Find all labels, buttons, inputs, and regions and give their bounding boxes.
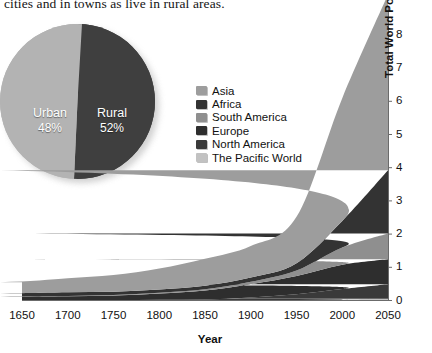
legend-item-asia[interactable]: Asia — [196, 84, 326, 97]
y-tick-label: 8 — [396, 28, 412, 40]
legend-swatch-icon — [196, 126, 207, 135]
x-tick-label: 2050 — [368, 309, 408, 321]
y-tick-label: 2 — [396, 227, 412, 239]
y-tick-label: 5 — [396, 128, 412, 140]
x-axis-title: Year — [170, 333, 250, 345]
area-chart-svg — [0, 0, 432, 353]
legend-item-africa[interactable]: Africa — [196, 97, 326, 110]
x-tick-label: 1900 — [231, 309, 271, 321]
x-tick-label: 1850 — [185, 309, 225, 321]
x-tick-label: 2000 — [322, 309, 362, 321]
x-tick-label: 1800 — [139, 309, 179, 321]
figure-world-population: cities and in towns as live in rural are… — [0, 0, 432, 353]
legend-item-south-america[interactable]: South America — [196, 111, 326, 124]
area-bands — [0, 0, 388, 301]
legend-swatch-icon — [196, 140, 207, 149]
y-tick-label: 6 — [396, 94, 412, 106]
legend-swatch-icon — [196, 153, 207, 162]
legend-item-label: Asia — [212, 85, 234, 97]
x-tick-label: 1950 — [277, 309, 317, 321]
y-tick-label: 0 — [396, 294, 412, 306]
y-tick-label: 7 — [396, 61, 412, 73]
y-axis-title-bold: Total World Population — [383, 0, 395, 78]
x-tick-label: 1750 — [94, 309, 134, 321]
legend-item-the-pacific-world[interactable]: The Pacific World — [196, 151, 326, 164]
legend-item-label: Africa — [212, 98, 241, 110]
y-tick-label: 1 — [396, 260, 412, 272]
legend-item-label: South America — [212, 111, 287, 123]
legend-item-label: North America — [212, 138, 285, 150]
chart-legend: AsiaAfricaSouth AmericaEuropeNorth Ameri… — [196, 84, 326, 164]
legend-item-label: The Pacific World — [212, 152, 302, 164]
legend-swatch-icon — [196, 86, 207, 95]
x-tick-label: 1650 — [2, 309, 42, 321]
area-chart — [0, 0, 432, 353]
x-tick-label: 1700 — [48, 309, 88, 321]
legend-item-label: Europe — [212, 125, 249, 137]
legend-swatch-icon — [196, 100, 207, 109]
legend-swatch-icon — [196, 113, 207, 122]
legend-item-europe[interactable]: Europe — [196, 124, 326, 137]
y-tick-label: 4 — [396, 161, 412, 173]
y-axis-title: Total World Population (in billions) — [383, 0, 395, 78]
y-tick-label: 3 — [396, 194, 412, 206]
legend-item-north-america[interactable]: North America — [196, 138, 326, 151]
